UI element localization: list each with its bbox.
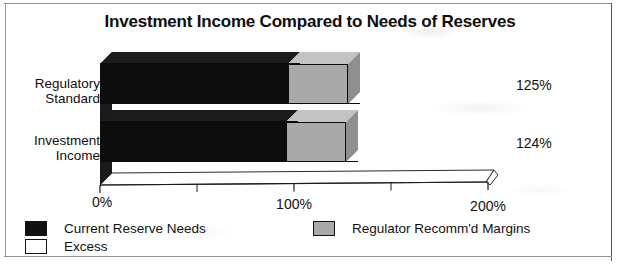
legend-swatch-excess[interactable] (25, 239, 47, 254)
category-label-line1: Investment (34, 133, 100, 148)
bar-segment-current-reserve-needs[interactable] (100, 122, 287, 162)
bar-edge-bottom-side (347, 103, 360, 104)
x-axis-floor-svg (96, 168, 500, 194)
legend-label-regulator-margins: Regulator Recomm'd Margins (352, 221, 530, 236)
legend-swatch-regulator-margins[interactable] (313, 221, 335, 236)
plot-area: Regulatory Standard Investment Income (0, 0, 620, 264)
category-label-line2: Standard (4, 91, 100, 106)
category-label-investment-income: Investment Income (4, 133, 100, 163)
bar-segment-regulator-margins[interactable] (288, 64, 348, 104)
legend-swatch-current-reserve-needs[interactable] (25, 221, 47, 236)
x-axis-floor (96, 168, 500, 194)
bar-segment-regulator-margins[interactable] (286, 122, 346, 162)
bar-edge-top-back (100, 63, 300, 64)
bar-value-label-regulatory-standard: 125% (516, 77, 552, 93)
x-axis-label-100: 100% (264, 196, 324, 212)
x-axis-label-0: 0% (72, 194, 132, 210)
bar-value-label-investment-income: 124% (516, 135, 552, 151)
category-label-line1: Regulatory (35, 76, 100, 91)
category-label-regulatory-standard: Regulatory Standard (4, 76, 100, 106)
category-label-line2: Income (4, 148, 100, 163)
bar-edge-bottom-side (345, 161, 358, 162)
bar-edge-top-back (100, 121, 298, 122)
legend-label-current-reserve-needs: Current Reserve Needs (64, 221, 206, 236)
bar-segment-current-reserve-needs[interactable] (100, 64, 289, 104)
legend-label-excess: Excess (64, 239, 108, 254)
x-axis-label-200: 200% (458, 198, 518, 214)
chart-figure: Investment Income Compared to Needs of R… (0, 0, 620, 264)
